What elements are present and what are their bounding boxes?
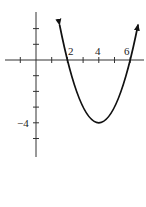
- x-tick-label-4: 4: [95, 45, 101, 57]
- x-tick-label-2: 2: [68, 45, 74, 57]
- parabola-curve: [60, 25, 139, 123]
- x-tick-label-6: 6: [124, 45, 130, 57]
- y-tick-label-neg4: −4: [17, 117, 29, 129]
- parabola-graph: 2 4 6 −4: [0, 0, 146, 207]
